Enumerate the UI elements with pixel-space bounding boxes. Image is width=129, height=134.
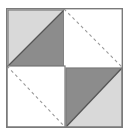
quadrant-bottom-left (7, 66, 65, 127)
figure-container (0, 0, 129, 134)
quadrant-bottom-right (66, 68, 122, 127)
quadrant-top-right (64, 9, 122, 67)
quadrant-top-left (8, 10, 64, 66)
geometric-tile-figure (0, 0, 129, 134)
